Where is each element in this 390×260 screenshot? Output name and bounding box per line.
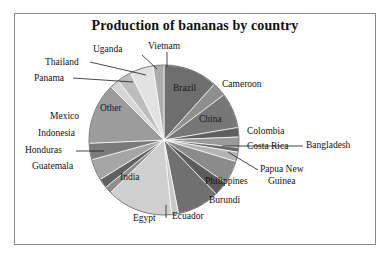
chart-page: Production of bananas by country Brazil … — [0, 0, 390, 260]
slice-label-panama: Panama — [34, 73, 64, 84]
slice-label-mexico: Mexico — [50, 111, 79, 122]
slice-label-honduras: Honduras — [25, 145, 62, 156]
slice-label-papua-new-guinea-line2: Guinea — [268, 176, 295, 187]
slice-label-brazil: Brazil — [173, 83, 196, 94]
slice-label-bangladesh: Bangladesh — [306, 140, 350, 151]
slice-label-philippines: Philippines — [205, 176, 248, 187]
slice-label-ecuador: Ecuador — [172, 211, 204, 222]
slice-label-china: China — [199, 114, 222, 125]
slice-label-vietnam: Vietnam — [148, 41, 180, 52]
slice-label-egypt: Egypt — [133, 213, 156, 224]
slice-label-burundi: Burundi — [209, 195, 240, 206]
pie-slices — [89, 65, 239, 215]
slice-label-cameroon: Cameroon — [222, 79, 262, 90]
slice-label-other: Other — [100, 103, 122, 114]
slice-label-india: India — [120, 172, 140, 183]
slice-label-thailand: Thailand — [45, 57, 79, 68]
leader-line-thailand — [90, 62, 146, 75]
slice-label-costa-rica: Costa Rica — [247, 141, 288, 152]
slice-label-indonesia: Indonesia — [38, 128, 75, 139]
slice-label-guatemala: Guatemala — [32, 161, 73, 172]
slice-label-papua-new-guinea-line1: Papua New — [260, 164, 304, 175]
slice-label-uganda: Uganda — [93, 44, 123, 55]
slice-label-colombia: Colombia — [247, 126, 284, 137]
